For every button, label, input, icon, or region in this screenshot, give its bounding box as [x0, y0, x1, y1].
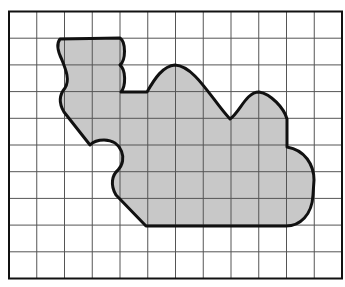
figure: Irregular shaded shape on a square grid — [0, 0, 345, 287]
grid-diagram — [0, 0, 345, 287]
